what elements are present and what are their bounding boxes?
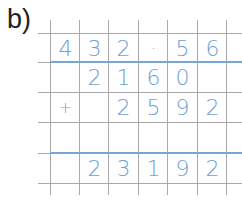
digit-cell: 2 [198,154,227,183]
digit-cell: 6 [139,63,168,92]
digit-cell: 6 [198,34,227,63]
digit-cell [51,63,80,92]
digit-cell: 1 [139,154,168,183]
grid-hline [38,122,242,123]
digit-cell: 2 [109,93,138,122]
decimal-point-cell: · [139,34,168,63]
digit-cell: 1 [109,63,138,92]
digit-cell: 2 [198,93,227,122]
digit-cell [80,93,109,122]
plus-sign-cell: + [51,93,80,122]
digit-cell: 3 [109,154,138,183]
digit-cell: 9 [168,154,197,183]
digit-cell: 2 [80,154,109,183]
digit-cell: 9 [168,93,197,122]
digit-cell: 5 [168,34,197,63]
digit-cell: 4 [51,34,80,63]
exercise-label: b) [7,6,31,33]
digit-cell: 0 [168,63,197,92]
digit-cell: 2 [109,34,138,63]
digit-cell: 2 [80,63,109,92]
digit-cell: 5 [139,93,168,122]
digit-cell: 3 [80,34,109,63]
digit-cell [198,63,227,92]
digit-cell [51,154,80,183]
grid-hline [38,183,242,184]
